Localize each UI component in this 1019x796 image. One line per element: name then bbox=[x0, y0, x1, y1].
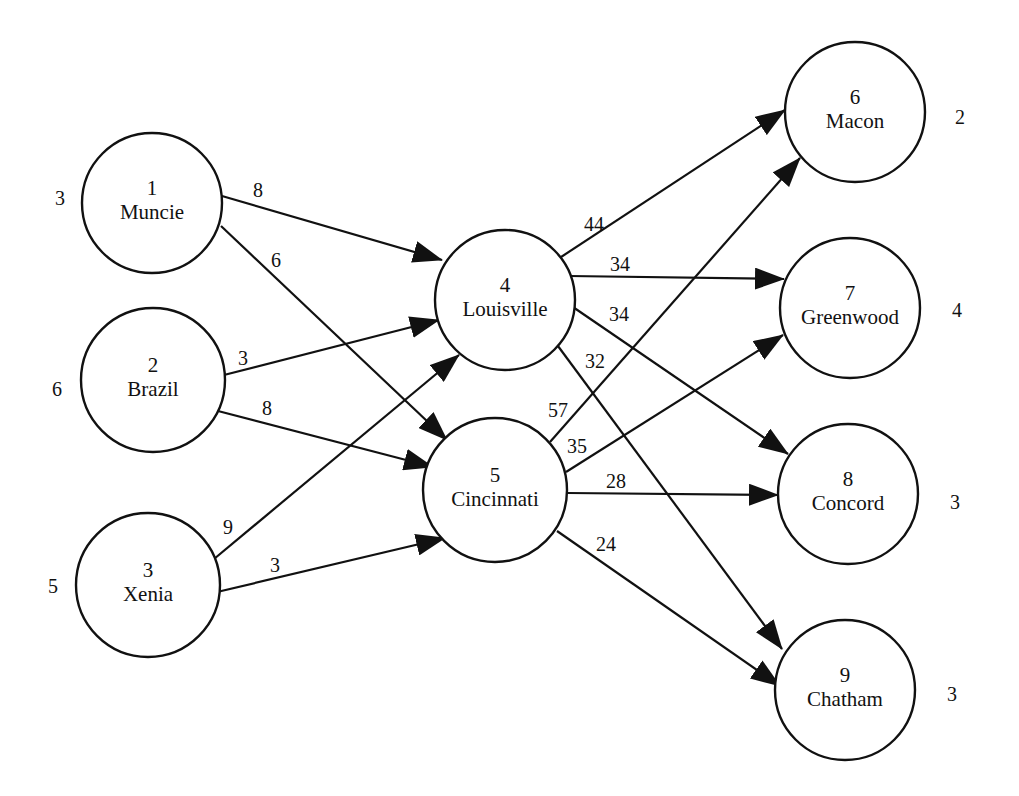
edge-arrow-4-to-8 bbox=[570, 305, 788, 454]
node-label-xenia: 3Xenia bbox=[123, 558, 173, 606]
edge-arrow-3-to-4 bbox=[214, 355, 459, 559]
node-label-concord: 8Concord bbox=[812, 467, 884, 515]
node-supply-demand-value: 3 bbox=[947, 684, 957, 704]
node-name: Chatham bbox=[807, 687, 883, 711]
edge-cost-label: 44 bbox=[584, 214, 604, 234]
node-label-louisville: 4Louisville bbox=[462, 273, 547, 321]
edge-arrow-5-to-6 bbox=[550, 158, 800, 442]
node-label-brazil: 2Brazil bbox=[127, 353, 178, 401]
node-number: 6 bbox=[826, 85, 884, 109]
node-supply-demand-value: 3 bbox=[55, 188, 65, 208]
edge-cost-label: 8 bbox=[253, 180, 263, 200]
edge-arrow-3-to-5 bbox=[217, 538, 445, 592]
edge-arrow-1-to-4 bbox=[222, 196, 442, 260]
edge-arrow-2-to-5 bbox=[218, 411, 433, 467]
node-label-greenwood: 7Greenwood bbox=[801, 281, 899, 329]
node-supply-demand-value: 3 bbox=[950, 492, 960, 512]
node-name: Louisville bbox=[462, 297, 547, 321]
node-name: Macon bbox=[826, 109, 884, 133]
edge-cost-label: 28 bbox=[606, 471, 626, 491]
edge-cost-label: 32 bbox=[585, 351, 605, 371]
node-supply-demand-value: 5 bbox=[48, 576, 58, 596]
edge-arrow-4-to-6 bbox=[558, 110, 785, 259]
edges-layer bbox=[214, 110, 800, 686]
node-label-chatham: 9Chatham bbox=[807, 663, 883, 711]
node-number: 9 bbox=[807, 663, 883, 687]
edge-cost-label: 9 bbox=[223, 517, 233, 537]
node-name: Xenia bbox=[123, 582, 173, 606]
node-number: 4 bbox=[462, 273, 547, 297]
edge-arrow-4-to-7 bbox=[569, 276, 784, 279]
edge-cost-label: 57 bbox=[548, 400, 568, 420]
node-supply-demand-value: 6 bbox=[52, 379, 62, 399]
node-name: Cincinnati bbox=[451, 487, 539, 511]
node-number: 7 bbox=[801, 281, 899, 305]
edge-cost-label: 24 bbox=[596, 534, 616, 554]
edge-cost-label: 3 bbox=[270, 555, 280, 575]
edge-arrow-5-to-8 bbox=[568, 493, 778, 495]
edge-cost-label: 3 bbox=[238, 348, 248, 368]
edge-cost-label: 34 bbox=[609, 304, 629, 324]
node-label-cincinnati: 5Cincinnati bbox=[451, 463, 539, 511]
edge-arrow-5-to-9 bbox=[557, 531, 780, 686]
node-supply-demand-value: 4 bbox=[952, 300, 962, 320]
node-number: 3 bbox=[123, 558, 173, 582]
node-name: Greenwood bbox=[801, 305, 899, 329]
edge-cost-label: 6 bbox=[271, 250, 281, 270]
node-number: 2 bbox=[127, 353, 178, 377]
node-supply-demand-value: 2 bbox=[955, 107, 965, 127]
node-label-muncie: 1Muncie bbox=[120, 176, 184, 224]
nodes-layer bbox=[76, 42, 925, 760]
node-name: Muncie bbox=[120, 200, 184, 224]
edge-cost-label: 34 bbox=[610, 254, 630, 274]
node-number: 1 bbox=[120, 176, 184, 200]
node-name: Brazil bbox=[127, 377, 178, 401]
node-name: Concord bbox=[812, 491, 884, 515]
node-label-macon: 6Macon bbox=[826, 85, 884, 133]
node-number: 5 bbox=[451, 463, 539, 487]
edge-arrow-1-to-5 bbox=[221, 226, 447, 440]
node-number: 8 bbox=[812, 467, 884, 491]
edge-cost-label: 8 bbox=[262, 398, 272, 418]
edge-cost-label: 35 bbox=[567, 436, 587, 456]
